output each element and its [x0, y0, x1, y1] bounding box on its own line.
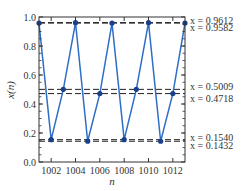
x-tick-label: 1002 [41, 165, 61, 176]
y-tick-label: 1.0 [24, 12, 37, 23]
x-tick-label: 1008 [114, 165, 134, 176]
x-tick-label: 1006 [90, 165, 110, 176]
data-point [134, 87, 139, 92]
series-line [39, 23, 185, 142]
y-tick-label: 0.0 [24, 157, 37, 168]
data-point [109, 20, 114, 25]
y-tick-label: 0.4 [24, 99, 37, 110]
x-tick-label: 1010 [139, 165, 159, 176]
data-point [85, 139, 90, 144]
reference-line-label: x = 0.9582 [190, 22, 233, 33]
period-six-orbit-chart: 1002100410061008101010120.00.20.40.60.81… [0, 0, 242, 191]
reference-line-label: x = 0.4718 [190, 93, 233, 104]
y-tick-label: 0.6 [24, 70, 37, 81]
data-point [170, 91, 175, 96]
y-tick-label: 0.8 [24, 41, 37, 52]
reference-line-labels: x = 0.9612x = 0.9582x = 0.5009x = 0.4718… [190, 15, 233, 152]
data-point [49, 137, 54, 142]
x-tick-label: 1004 [66, 165, 86, 176]
data-point [61, 87, 66, 92]
y-axis-label: x(n) [4, 81, 17, 100]
reference-line-label: x = 0.1432 [190, 140, 233, 151]
data-point [122, 137, 127, 142]
x-tick-label: 1012 [163, 165, 183, 176]
data-series [36, 20, 187, 144]
y-tick-label: 0.2 [24, 128, 37, 139]
reference-line-label: x = 0.5009 [190, 81, 233, 92]
data-point [97, 91, 102, 96]
x-axis-label: n [109, 175, 115, 187]
data-point [158, 139, 163, 144]
reference-lines [39, 23, 185, 142]
